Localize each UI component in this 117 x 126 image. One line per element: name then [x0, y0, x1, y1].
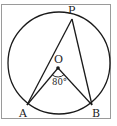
geometry-diagram: P O A B 80° [0, 0, 117, 126]
label-B: B [92, 107, 100, 120]
angle-label: 80° [52, 77, 67, 87]
segment-AP [27, 19, 72, 105]
center-point [56, 66, 60, 70]
label-A: A [18, 107, 28, 120]
label-P: P [68, 4, 76, 17]
segment-PB [72, 19, 92, 105]
label-O: O [54, 53, 63, 66]
